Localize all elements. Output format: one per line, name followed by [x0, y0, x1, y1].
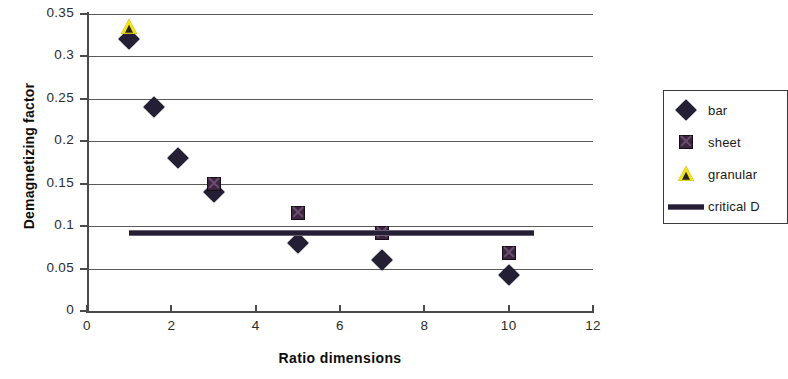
gridline	[87, 56, 593, 57]
gridline	[87, 14, 593, 15]
x-tick-label: 6	[320, 318, 360, 333]
y-tick-label: 0.15	[47, 175, 74, 190]
y-tick	[80, 98, 89, 100]
x-tick-label: 4	[236, 318, 276, 333]
y-tick-label: 0.35	[47, 5, 74, 20]
x-axis-title: Ratio dimensions	[87, 350, 593, 366]
critical-d-line	[129, 230, 534, 236]
gridline	[87, 99, 593, 100]
y-tick	[80, 55, 89, 57]
data-point-sheet	[502, 246, 516, 260]
legend-entry-granular: granular	[664, 159, 787, 189]
y-tick	[80, 183, 89, 185]
gridline	[87, 141, 593, 142]
x-tick	[255, 305, 257, 313]
y-tick-label: 0	[66, 302, 74, 317]
gridline	[87, 184, 593, 185]
legend-entry-bar: bar	[664, 95, 787, 125]
legend-label-bar: bar	[708, 103, 727, 118]
legend-entry-sheet: sheet	[664, 127, 787, 157]
line-icon	[664, 191, 708, 221]
x-tick	[339, 305, 341, 313]
x-tick	[170, 305, 172, 313]
data-point-sheet	[207, 177, 221, 191]
x-tick-label: 2	[151, 318, 191, 333]
y-tick	[80, 225, 89, 227]
y-tick-label: 0.1	[54, 217, 74, 232]
x-tick-label: 12	[573, 318, 613, 333]
x-tick-label: 0	[67, 318, 107, 333]
gridline	[87, 269, 593, 270]
y-tick	[80, 13, 89, 15]
y-tick-label: 0.3	[54, 47, 74, 62]
y-tick	[80, 140, 89, 142]
triangle-icon	[664, 159, 708, 189]
legend: bar sheet granular critical D	[663, 90, 788, 224]
y-tick	[80, 268, 89, 270]
diamond-icon	[664, 95, 708, 125]
legend-entry-critical-d: critical D	[664, 191, 787, 221]
y-tick-label: 0.25	[47, 90, 74, 105]
x-tick	[86, 305, 88, 313]
y-tick-label: 0.05	[47, 260, 74, 275]
data-point-bar	[167, 148, 188, 169]
gridline	[87, 226, 593, 227]
y-tick-label: 0.2	[54, 132, 74, 147]
y-axis-title: Demagnetizing factor	[21, 31, 37, 281]
data-point-sheet	[291, 206, 305, 220]
x-tick	[592, 305, 594, 313]
data-point-bar	[372, 249, 393, 270]
x-tick	[423, 305, 425, 313]
legend-label-granular: granular	[708, 167, 757, 182]
square-icon	[664, 127, 708, 157]
x-tick-label: 10	[489, 318, 529, 333]
data-point-bar	[144, 97, 165, 118]
x-tick	[508, 305, 510, 313]
data-point-granular	[121, 18, 137, 33]
x-tick-label: 8	[404, 318, 444, 333]
legend-label-critical-d: critical D	[708, 199, 760, 214]
legend-label-sheet: sheet	[708, 135, 741, 150]
